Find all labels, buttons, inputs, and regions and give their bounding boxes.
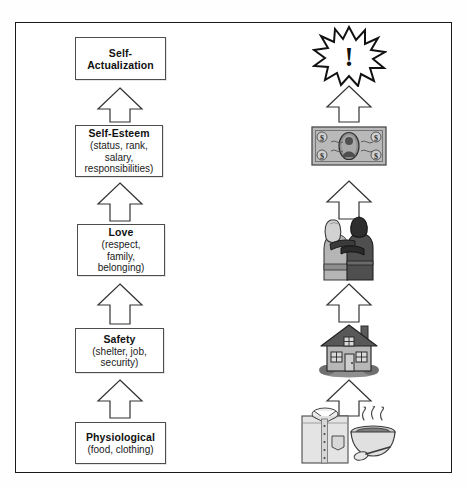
need-subtitle: (shelter, job, security) xyxy=(92,346,146,369)
up-arrow-right-level2-to-3 xyxy=(325,283,373,323)
need-subtitle: (food, clothing) xyxy=(87,444,153,456)
house-icon xyxy=(315,320,383,378)
up-arrow-physiological-to-safety xyxy=(96,379,144,419)
need-title: Physiological xyxy=(86,431,155,443)
diagram-canvas: Self- Actualization Self-Esteem (status,… xyxy=(0,0,467,488)
need-box-love[interactable]: Love (respect, family, belonging) xyxy=(77,224,165,276)
need-title: Safety xyxy=(103,333,135,345)
need-box-self-esteem[interactable]: Self-Esteem (status, rank, salary, respo… xyxy=(75,125,163,177)
need-subtitle-line: (respect, xyxy=(102,239,141,250)
need-box-safety[interactable]: Safety (shelter, job, security) xyxy=(75,328,164,373)
need-title: Self-Esteem xyxy=(88,127,149,139)
need-subtitle-line: security) xyxy=(101,357,139,368)
svg-text:$: $ xyxy=(374,152,378,161)
up-arrow-self-esteem-to-self-actualization xyxy=(96,87,144,123)
need-box-self-actualization[interactable]: Self- Actualization xyxy=(75,37,166,80)
up-arrow-love-to-self-esteem xyxy=(96,182,144,222)
need-subtitle-line: family, xyxy=(107,251,135,262)
svg-text:$: $ xyxy=(374,134,378,143)
need-subtitle-line: (shelter, job, xyxy=(92,346,146,357)
svg-text:$: $ xyxy=(320,134,324,143)
need-subtitle: (respect, family, belonging) xyxy=(98,239,145,274)
need-subtitle-line: salary, xyxy=(105,152,134,163)
up-arrow-right-level4-to-5 xyxy=(325,85,373,123)
need-subtitle-line: (status, rank, xyxy=(90,140,148,151)
svg-text:$: $ xyxy=(320,152,324,161)
need-title: Love xyxy=(109,226,134,238)
embracing-couple-icon xyxy=(311,214,386,282)
need-subtitle: (status, rank, salary, responsibilities) xyxy=(85,140,154,175)
need-subtitle-line: belonging) xyxy=(98,262,145,273)
need-title: Self- Actualization xyxy=(87,47,154,71)
starburst-exclamation-label: ! xyxy=(345,42,354,72)
up-arrow-safety-to-love xyxy=(96,283,144,325)
need-subtitle-line: responsibilities) xyxy=(85,163,154,174)
starburst-exclamation-icon: ! xyxy=(312,25,387,87)
shirt-and-soup-bowl-icon xyxy=(298,406,403,464)
need-title-line: Self- xyxy=(109,47,132,59)
dollar-bill-icon: $ $ $ $ xyxy=(311,126,387,166)
need-title-line: Actualization xyxy=(87,59,154,71)
need-box-physiological[interactable]: Physiological (food, clothing) xyxy=(75,422,166,464)
